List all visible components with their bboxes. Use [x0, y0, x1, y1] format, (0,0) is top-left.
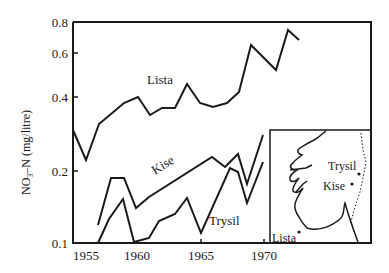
x-tick-labels: 1955 1960 1965 1970 — [73, 248, 277, 263]
y-axis-label: NO3–N (mg/litre) — [19, 110, 35, 195]
x-tick-1955: 1955 — [73, 248, 99, 263]
series-label-kise: Kise — [149, 152, 177, 177]
y-tick-0.6: 0.6 — [52, 46, 69, 61]
fjord-sognefjord — [290, 165, 312, 170]
x-tick-1965: 1965 — [188, 248, 214, 263]
marker-trysil — [357, 172, 360, 175]
y-tick-0.2: 0.2 — [52, 164, 68, 179]
x-tick-1960: 1960 — [124, 248, 150, 263]
series-lista-line — [73, 30, 299, 160]
inset-map: Trysil Kise Lista — [270, 130, 370, 245]
map-label-lista: Lista — [272, 231, 297, 245]
map-label-kise: Kise — [323, 179, 345, 193]
series-label-lista: Lista — [147, 72, 173, 87]
marker-lista — [297, 230, 300, 233]
plot-frame — [73, 22, 371, 243]
series-kise-line — [98, 135, 263, 225]
national-border — [351, 133, 366, 232]
svg-text:NO3–N (mg/litre): NO3–N (mg/litre) — [19, 110, 35, 195]
map-label-trysil: Trysil — [328, 159, 357, 173]
y-tick-0.8: 0.8 — [52, 15, 68, 30]
y-tick-labels: 0.8 0.6 0.4 0.2 0.1 — [52, 15, 69, 251]
series-trysil-line — [98, 162, 263, 243]
series-label-trysil: Trysil — [209, 213, 240, 228]
marker-kise — [350, 182, 353, 185]
ylabel-rest: –N (mg/litre) — [19, 110, 33, 175]
nitrate-chart: 0.8 0.6 0.4 0.2 0.1 NO3–N (mg/litre) 195… — [0, 0, 389, 273]
ylabel-main: NO — [19, 177, 33, 195]
x-tick-1970: 1970 — [251, 248, 277, 263]
y-tick-0.1: 0.1 — [52, 236, 68, 251]
y-tick-0.4: 0.4 — [52, 90, 69, 105]
inset-map-frame — [270, 130, 370, 243]
